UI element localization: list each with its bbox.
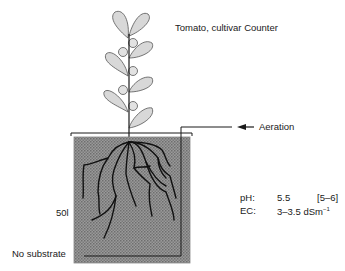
ec-value: 3–3.5 dSm−1 [277,206,330,217]
fruit [129,102,138,111]
aeration-label: Aeration [259,122,294,132]
leaf [129,13,149,36]
diagram-title: Tomato, cultivar Counter [175,23,278,33]
fruit [119,48,128,57]
fruit [119,86,128,95]
leaf [113,11,129,38]
ph-range: [5–6] [317,193,338,203]
ec-value-text: 3–3.5 dSm [277,206,323,217]
ph-value: 5.5 [277,193,290,203]
nutrient-solution [74,137,190,263]
leaf [129,77,153,92]
ec-unit-exponent: −1 [323,206,330,212]
fruit [129,67,138,76]
ph-key: pH: [240,193,255,203]
substrate-label: No substrate [12,249,66,259]
plant-shoot [104,11,153,128]
container-rim [71,133,192,136]
fruit [129,39,138,48]
hydroponic-diagram [0,0,345,271]
ec-key: EC: [240,206,256,216]
arrow-left-icon [237,124,254,130]
volume-label: 50l [56,208,69,218]
